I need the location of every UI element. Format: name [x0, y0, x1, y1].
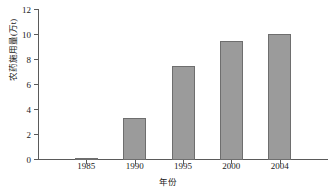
y-tick: 4	[34, 109, 39, 110]
y-tick-label: 8	[27, 55, 32, 64]
y-tick: 6	[34, 84, 39, 85]
bar	[172, 66, 195, 160]
x-axis-title: 年份	[0, 175, 336, 187]
x-tick-label: 1995	[161, 162, 205, 171]
y-axis-line	[38, 10, 39, 160]
bar	[268, 34, 291, 160]
bar	[123, 118, 146, 160]
y-tick: 8	[34, 59, 39, 60]
plot-area: 024681012	[38, 10, 328, 160]
y-tick: 2	[34, 134, 39, 135]
y-tick-label: 10	[22, 30, 31, 39]
x-tick-label: 2004	[258, 162, 302, 171]
x-tick-label: 2000	[209, 162, 253, 171]
y-tick-label: 0	[27, 155, 32, 164]
y-axis-title: 农药施用量(万t)	[6, 2, 18, 98]
y-tick: 0	[34, 159, 39, 160]
y-tick-label: 2	[27, 130, 32, 139]
bar-chart: 农药施用量(万t) 024681012 19851990199520002004…	[0, 0, 336, 194]
y-tick: 12	[34, 9, 39, 10]
y-tick-label: 4	[27, 105, 32, 114]
x-tick-label: 1985	[64, 162, 108, 171]
y-tick-label: 6	[27, 80, 32, 89]
x-tick-label: 1990	[113, 162, 157, 171]
y-tick: 10	[34, 34, 39, 35]
bar	[220, 41, 243, 160]
y-tick-label: 12	[22, 5, 31, 14]
bar	[75, 158, 98, 160]
